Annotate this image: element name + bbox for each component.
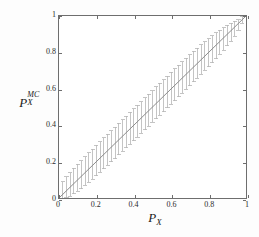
x-axis-tick-label: 0.2 bbox=[91, 201, 101, 209]
x-axis-tick bbox=[172, 195, 173, 198]
figure-root: 00.20.40.60.81 00.20.40.60.81 PX PMCX bbox=[0, 0, 259, 237]
y-axis-label-scripts: MCX bbox=[27, 94, 36, 107]
y-axis-tick bbox=[243, 90, 246, 91]
errorbar-marker bbox=[72, 168, 76, 194]
x-axis-tick bbox=[172, 16, 173, 19]
y-axis-label: PMCX bbox=[19, 94, 36, 109]
x-axis-tick-label: 0.8 bbox=[204, 201, 214, 209]
y-axis-tick-label: 0 bbox=[52, 195, 56, 203]
x-axis-label-base: P bbox=[148, 210, 156, 225]
plot-canvas bbox=[59, 16, 246, 198]
x-axis-label: PX bbox=[148, 211, 161, 227]
y-axis-tick-label: 0.2 bbox=[46, 158, 56, 166]
x-axis-tick bbox=[210, 195, 211, 198]
y-axis-tick-label: 0.8 bbox=[46, 48, 56, 56]
x-axis-tick bbox=[248, 16, 249, 19]
y-axis-label-subscript: X bbox=[27, 97, 32, 106]
errorbar-marker bbox=[68, 173, 72, 197]
x-axis-tick bbox=[97, 16, 98, 19]
y-axis-tick bbox=[59, 90, 62, 91]
x-axis-tick-label: 0 bbox=[56, 201, 60, 209]
y-axis-tick-label: 1 bbox=[52, 11, 56, 19]
y-axis-tick bbox=[59, 53, 62, 54]
x-axis-tick-label: 0.4 bbox=[129, 201, 139, 209]
y-axis-tick bbox=[59, 126, 62, 127]
y-axis-tick bbox=[243, 163, 246, 164]
y-axis-tick bbox=[59, 163, 62, 164]
y-axis-tick bbox=[243, 53, 246, 54]
y-axis-label-base: P bbox=[19, 95, 27, 110]
x-axis-tick bbox=[135, 16, 136, 19]
reference-line bbox=[59, 16, 246, 198]
y-axis-tick bbox=[243, 16, 246, 17]
reference-line-series bbox=[59, 16, 246, 198]
errorbar-marker bbox=[64, 177, 68, 198]
x-axis-label-subscript: X bbox=[156, 217, 161, 227]
x-axis-tick bbox=[210, 16, 211, 19]
x-axis-tick bbox=[248, 195, 249, 198]
y-axis-tick bbox=[59, 16, 62, 17]
plot-area bbox=[58, 15, 247, 199]
x-axis-tick-label: 0.6 bbox=[166, 201, 176, 209]
x-axis-tick bbox=[135, 195, 136, 198]
y-axis-tick bbox=[243, 126, 246, 127]
x-axis-tick bbox=[59, 195, 60, 198]
x-axis-tick-label: 1 bbox=[245, 201, 249, 209]
x-axis-tick bbox=[97, 195, 98, 198]
y-axis-tick-label: 0.6 bbox=[46, 85, 56, 93]
y-axis-tick-label: 0.4 bbox=[46, 121, 56, 129]
